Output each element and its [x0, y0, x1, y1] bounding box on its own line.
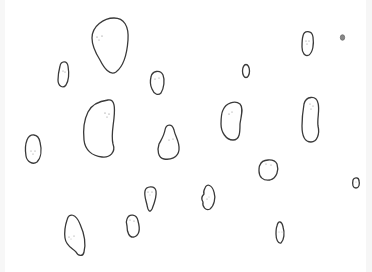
blob-creature-top-right	[302, 32, 313, 56]
blob-creature-small-oval	[243, 65, 250, 78]
drawing-canvas	[0, 0, 372, 272]
blob-creature-mid	[221, 102, 242, 140]
blob-creature-mid-small	[150, 71, 164, 94]
blob-creature-pear	[158, 125, 179, 159]
blob-creature-small-bottom	[126, 215, 139, 237]
blob-creature-round	[259, 160, 278, 180]
blob-creature-irregular	[202, 185, 215, 209]
blob-creature-small-bottom-right	[276, 222, 284, 243]
blob-creature-large-top	[92, 18, 128, 73]
blob-creature-tall-bottom-left	[65, 215, 85, 255]
blob-drawing	[0, 0, 372, 272]
blob-creature-tiny-right	[353, 178, 360, 188]
blob-creature-tall-right	[302, 97, 319, 142]
blob-creature-large-left	[84, 100, 115, 157]
blob-creature-small-left	[58, 62, 69, 87]
blob-creature-dot	[340, 35, 344, 41]
blob-creature-drop	[145, 187, 156, 211]
blob-creature-left-oval	[25, 135, 41, 163]
